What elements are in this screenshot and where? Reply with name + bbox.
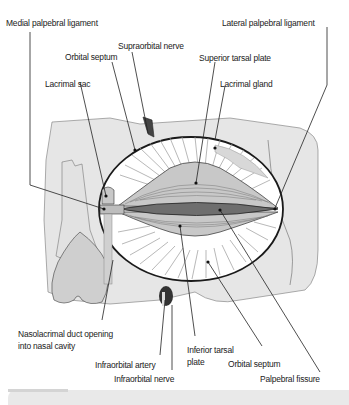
label-orbital-septum-bottom: Orbital septum — [228, 358, 280, 369]
label-inferior-tarsal-plate-line2: plate — [187, 356, 204, 367]
label-nasolacrimal-duct: Nasolacrimal duct opening — [18, 328, 113, 339]
label-palpebral-fissure: Palpebral fissure — [260, 373, 320, 384]
label-superior-tarsal-plate: Superior tarsal plate — [199, 52, 271, 63]
label-infraorbital-nerve: Infraorbital nerve — [114, 373, 174, 384]
label-inferior-tarsal-plate: Inferior tarsal — [187, 344, 234, 355]
label-lateral-palpebral-ligament: Lateral palpebral ligament — [222, 17, 315, 28]
bottom-panel — [8, 390, 349, 405]
label-supraorbital-nerve: Supraorbital nerve — [118, 40, 184, 51]
label-orbital-septum-top: Orbital septum — [65, 51, 117, 62]
label-lacrimal-gland: Lacrimal gland — [220, 78, 272, 89]
label-infraorbital-artery: Infraorbital artery — [95, 359, 155, 370]
infraorbital-foramen — [159, 286, 173, 306]
bottom-panel-tab — [8, 389, 68, 392]
label-medial-palpebral-ligament: Medial palpebral ligament — [6, 17, 98, 28]
lacrimal-sac — [102, 187, 114, 204]
label-lacrimal-sac: Lacrimal sac — [45, 78, 90, 89]
label-nasolacrimal-duct-line2: into nasal cavity — [18, 340, 75, 351]
